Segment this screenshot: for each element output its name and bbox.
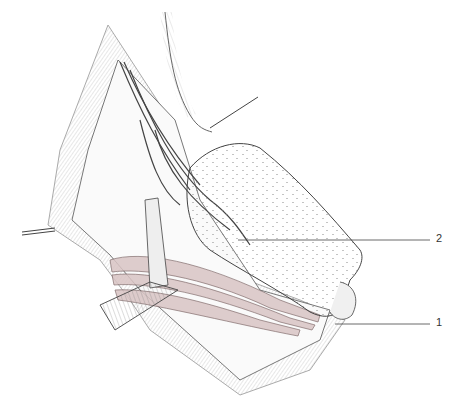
label-1: 1 [436, 317, 442, 328]
label-2: 2 [436, 233, 442, 244]
retractor-wire-top [210, 97, 258, 128]
anatomical-illustration [0, 0, 463, 406]
body-contour-shading [160, 12, 196, 118]
